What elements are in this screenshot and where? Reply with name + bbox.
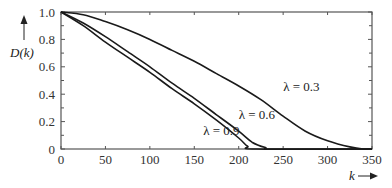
x-tick-label: 200 [229,152,249,167]
y-tick-label: 0.8 [39,32,55,47]
x-tick-label: 0 [58,152,65,167]
x-tick-label: 350 [362,152,382,167]
x-tick-label: 100 [140,152,160,167]
y-arrowhead-icon [21,15,28,24]
y-tick-label: 0 [49,142,56,157]
y-tick-label: 1.0 [39,5,55,20]
x-tick-label: 300 [318,152,338,167]
x-tick-label: 50 [99,152,112,167]
x-tick-label: 150 [185,152,205,167]
x-axis-title-group: k [349,168,378,183]
y-axis-title: D(k) [9,45,34,60]
x-tick-label: 250 [273,152,293,167]
curve-label: λ = 0.9 [203,123,239,138]
curve-label: λ = 0.6 [239,107,276,122]
x-axis-ticks: 050100150200250300350 [58,12,382,167]
chart: 00.20.40.60.81.0 050100150200250300350 λ… [0,0,392,188]
x-arrowhead-icon [370,173,378,180]
y-tick-label: 0.4 [39,87,56,102]
y-tick-label: 0.2 [39,114,55,129]
y-tick-label: 0.6 [39,59,56,74]
curve-label: λ = 0.3 [283,79,319,94]
y-axis-title-group: D(k) [9,15,34,60]
x-axis-title: k [349,168,355,183]
